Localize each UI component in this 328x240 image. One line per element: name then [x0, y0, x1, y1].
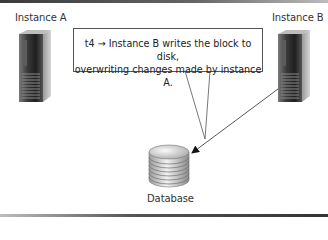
database-cylinder-icon	[146, 143, 192, 189]
callout-line-2: overwriting changes made by instance A.	[74, 63, 262, 89]
database-label: Database	[147, 193, 194, 204]
callout-line-1: t4 → Instance B writes the block to disk…	[74, 37, 262, 63]
callout-box: t4 → Instance B writes the block to disk…	[73, 28, 263, 72]
bottom-rule	[0, 214, 328, 217]
